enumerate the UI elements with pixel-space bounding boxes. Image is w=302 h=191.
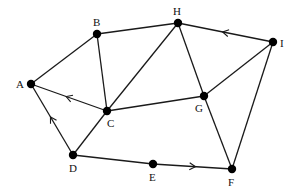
node-D — [69, 151, 77, 159]
node-C — [103, 107, 111, 115]
node-B — [93, 30, 101, 38]
node-label-E: E — [149, 171, 156, 183]
node-label-F: F — [228, 176, 234, 188]
node-label-G: G — [195, 102, 203, 114]
edge-I-F — [232, 42, 273, 169]
edge-D-E — [73, 155, 153, 164]
edge-H-G — [178, 23, 204, 96]
node-H — [174, 19, 182, 27]
node-label-I: I — [280, 37, 284, 49]
node-E — [149, 160, 157, 168]
labels-layer: ABHICGDEF — [16, 5, 284, 188]
node-A — [27, 80, 35, 88]
edge-H-C — [107, 23, 178, 111]
edge-C-A — [31, 84, 107, 111]
edge-B-H — [97, 23, 178, 34]
node-label-B: B — [93, 16, 100, 28]
edge-G-F — [204, 96, 232, 169]
node-label-A: A — [16, 78, 24, 90]
edge-D-C — [73, 111, 107, 155]
edge-I-H — [178, 23, 273, 42]
graph-diagram: ABHICGDEF — [0, 0, 302, 191]
edge-C-G — [107, 96, 204, 111]
edge-B-C — [97, 34, 107, 111]
node-G — [200, 92, 208, 100]
node-label-C: C — [107, 117, 114, 129]
edge-D-A — [31, 84, 73, 155]
edge-I-G — [204, 42, 273, 96]
node-label-D: D — [69, 162, 77, 174]
edge-A-B — [31, 34, 97, 84]
node-F — [228, 165, 236, 173]
node-I — [269, 38, 277, 46]
node-label-H: H — [173, 5, 181, 17]
